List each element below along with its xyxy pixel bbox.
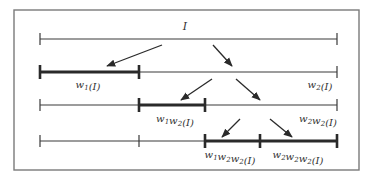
- arrow-to-w1-icon: [107, 45, 162, 66]
- w2-label: w2(I): [308, 79, 333, 92]
- arrow-to-w2-icon: [213, 45, 232, 66]
- interval-I-label: I: [182, 20, 188, 33]
- interval-row-3: w1w2w2(I)w2w2w2(I): [40, 134, 337, 166]
- interval-rows: w1(I)w2(I)w1w2(I)w2w2(I)w1w2w2(I)w2w2w2(…: [40, 33, 337, 166]
- w2w2-label: w2w2(I): [299, 113, 337, 128]
- w1w2-label: w1w2(I): [156, 113, 194, 128]
- subdivision-diagram: I w1(I)w2(I)w1w2(I)w2w2(I)w1w2w2(I)w2w2w…: [0, 0, 366, 176]
- w1-label: w1(I): [76, 79, 101, 92]
- interval-row-2: w1w2(I)w2w2(I): [40, 98, 337, 128]
- arrow-to-w1w2-icon: [181, 79, 212, 100]
- arrow-to-w2w2w2-icon: [270, 119, 292, 137]
- w1w2w2-label: w1w2w2(I): [205, 149, 256, 166]
- arrow-to-w2w2-icon: [236, 79, 260, 100]
- w2w2w2-label: w2w2w2(I): [273, 149, 324, 166]
- interval-row-1: w1(I)w2(I): [40, 65, 337, 92]
- mapping-arrows: [107, 45, 292, 137]
- diagram-frame: [14, 10, 359, 170]
- interval-row-0: [40, 33, 337, 45]
- arrow-to-w1w2w2-icon: [222, 119, 240, 137]
